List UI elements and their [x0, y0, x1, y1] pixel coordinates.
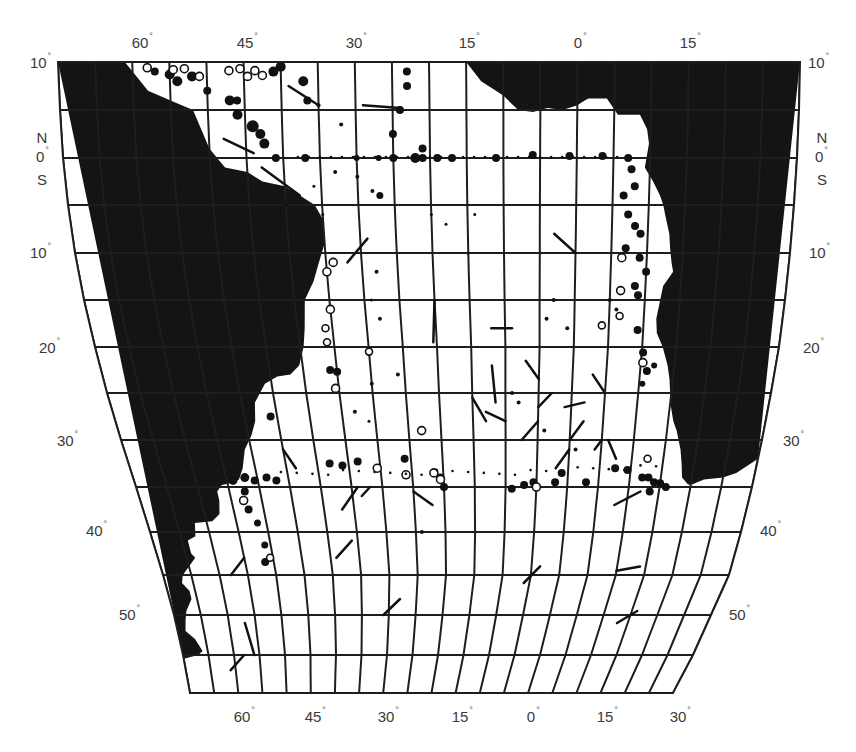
station-filled-marker — [436, 469, 439, 472]
station-open-marker — [258, 71, 266, 79]
degree-symbol: ° — [137, 603, 141, 613]
station-filled-marker — [333, 170, 337, 174]
station-filled-marker — [295, 472, 298, 475]
station-filled-marker — [467, 252, 470, 255]
station-filled-marker — [561, 156, 564, 159]
degree-symbol: ° — [75, 429, 79, 439]
degree-symbol: ° — [824, 145, 828, 155]
degree-symbol: ° — [583, 31, 587, 41]
station-filled-marker — [473, 213, 476, 216]
station-filled-marker — [378, 317, 382, 321]
station-filled-marker — [634, 326, 642, 334]
station-filled-marker — [628, 165, 636, 173]
right-latitude-label: 20 — [803, 339, 820, 356]
station-filled-marker — [608, 298, 612, 302]
degree-symbol: ° — [614, 705, 618, 715]
station-filled-marker — [342, 469, 345, 472]
station-filled-marker — [498, 473, 501, 476]
station-open-marker — [143, 64, 151, 72]
degree-symbol: ° — [801, 429, 805, 439]
station-filled-marker — [280, 471, 283, 474]
station-filled-marker — [245, 506, 253, 514]
station-filled-marker — [330, 156, 333, 159]
degree-symbol: ° — [469, 705, 473, 715]
station-filled-marker — [510, 391, 514, 395]
station-filled-marker — [514, 473, 517, 476]
degree-symbol: ° — [536, 705, 540, 715]
station-filled-marker — [261, 541, 268, 548]
station-open-marker — [169, 66, 177, 74]
station-filled-marker — [255, 129, 265, 139]
station-filled-marker — [354, 155, 360, 161]
degree-symbol: ° — [48, 241, 52, 251]
station-filled-marker — [473, 156, 476, 159]
station-filled-marker — [517, 156, 520, 159]
station-filled-marker — [582, 478, 590, 486]
station-filled-marker — [233, 110, 243, 120]
station-filled-marker — [545, 317, 549, 321]
station-filled-marker — [662, 483, 670, 491]
station-filled-marker — [251, 476, 259, 484]
degree-symbol: ° — [45, 145, 49, 155]
station-filled-marker — [403, 68, 411, 76]
station-filled-marker — [550, 156, 553, 159]
station-filled-marker — [611, 464, 619, 472]
degree-symbol: ° — [395, 705, 399, 715]
right-latitude-label: 30 — [783, 432, 800, 449]
left-latitude-label: 0 — [36, 148, 44, 165]
station-filled-marker — [445, 223, 448, 226]
station-filled-marker — [646, 488, 654, 496]
degree-symbol: ° — [254, 31, 258, 41]
station-filled-marker — [560, 471, 563, 474]
bottom-longitude-label: 30 — [378, 708, 395, 725]
degree-symbol: ° — [363, 31, 367, 41]
station-filled-marker — [539, 156, 542, 159]
station-filled-marker — [338, 461, 346, 469]
station-filled-marker — [565, 326, 569, 330]
station-filled-marker — [520, 481, 528, 489]
station-filled-marker — [321, 213, 324, 216]
station-filled-marker — [341, 156, 344, 159]
station-filled-marker — [376, 192, 383, 199]
station-filled-marker — [624, 211, 632, 219]
station-filled-marker — [429, 156, 432, 159]
station-filled-marker — [396, 373, 400, 377]
station-filled-marker — [259, 139, 269, 149]
top-longitude-label: 30 — [346, 34, 363, 51]
left-latitude-label: 30 — [57, 432, 74, 449]
station-filled-marker — [308, 156, 311, 159]
station-open-marker — [240, 497, 248, 505]
station-open-marker — [195, 72, 203, 80]
station-filled-marker — [655, 465, 658, 468]
left-latitude-label: 40 — [86, 522, 103, 539]
degree-symbol: ° — [697, 31, 701, 41]
station-filled-marker — [529, 469, 532, 472]
station-open-marker — [251, 67, 259, 75]
station-filled-marker — [552, 298, 556, 302]
station-filled-marker — [298, 76, 308, 86]
degree-symbol: ° — [747, 603, 751, 613]
degree-symbol: ° — [48, 51, 52, 61]
station-filled-marker — [327, 473, 330, 476]
station-filled-marker — [375, 270, 379, 274]
bottom-longitude-label: 60 — [234, 708, 251, 725]
station-filled-marker — [370, 299, 373, 302]
station-filled-marker — [241, 488, 249, 496]
right-latitude-label: 10 — [809, 244, 826, 261]
station-filled-marker — [542, 429, 546, 433]
station-filled-marker — [374, 156, 377, 159]
top-longitude-label: 45 — [237, 34, 254, 51]
station-open-marker — [332, 384, 340, 392]
top-longitude-label: 0 — [574, 34, 582, 51]
station-filled-marker — [430, 213, 433, 216]
station-filled-marker — [462, 156, 465, 159]
station-filled-marker — [622, 244, 630, 252]
right-latitude-label: 0 — [815, 148, 823, 165]
station-filled-marker — [297, 156, 300, 159]
right-latitude-label: 10 — [808, 54, 825, 71]
station-filled-marker — [419, 154, 427, 162]
station-filled-marker — [528, 156, 531, 159]
station-open-marker — [598, 322, 605, 329]
degree-symbol: ° — [826, 51, 830, 61]
bottom-longitude-label: 15 — [452, 708, 469, 725]
